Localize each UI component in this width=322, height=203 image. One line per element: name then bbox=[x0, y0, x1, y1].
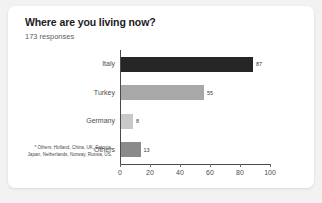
x-axis-line bbox=[120, 164, 270, 165]
x-tick-label: 40 bbox=[176, 169, 184, 176]
others-footnote: * Others: Holland, China, UK, Estonia, J… bbox=[20, 145, 112, 159]
bar-italy[interactable] bbox=[121, 57, 253, 72]
bar-turkey[interactable] bbox=[121, 85, 204, 100]
x-tick-mark bbox=[120, 164, 121, 167]
category-label: Germany bbox=[86, 107, 115, 136]
bar-germany[interactable] bbox=[121, 114, 133, 129]
x-tick-label: 0 bbox=[118, 169, 122, 176]
response-count: 173 responses bbox=[25, 32, 74, 41]
x-tick-mark bbox=[270, 164, 271, 167]
bar-others[interactable] bbox=[121, 142, 141, 157]
bar-value-label: 8 bbox=[136, 118, 139, 124]
category-label: Turkey bbox=[94, 79, 115, 108]
bar-row: Italy 87 bbox=[121, 50, 262, 79]
x-tick-mark bbox=[240, 164, 241, 167]
page-title: Where are you living now? bbox=[25, 16, 156, 28]
bar-value-label: 13 bbox=[144, 147, 150, 153]
bar-row: Others 13 bbox=[121, 136, 150, 165]
x-tick-label: 60 bbox=[206, 169, 214, 176]
category-label: Italy bbox=[102, 50, 115, 79]
bar-value-label: 87 bbox=[256, 61, 262, 67]
x-axis: 0 20 40 60 80 100 bbox=[120, 164, 272, 180]
bar-row: Turkey 55 bbox=[121, 79, 213, 108]
bar-row: Germany 8 bbox=[121, 107, 139, 136]
x-tick-label: 80 bbox=[236, 169, 244, 176]
bar-value-label: 55 bbox=[207, 90, 213, 96]
x-tick-label: 100 bbox=[264, 169, 276, 176]
chart-card: Where are you living now? 173 responses … bbox=[8, 6, 314, 188]
x-tick-mark bbox=[210, 164, 211, 167]
x-tick-mark bbox=[180, 164, 181, 167]
bar-chart-plot-area: Italy 87 Turkey 55 Germany 8 Others 13 bbox=[120, 50, 270, 164]
x-tick-mark bbox=[150, 164, 151, 167]
x-tick-label: 20 bbox=[146, 169, 154, 176]
